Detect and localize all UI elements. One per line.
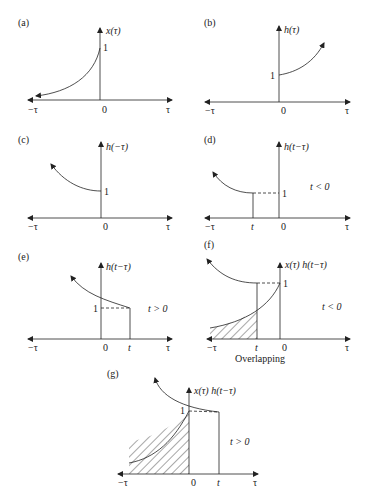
panel-label: (d): [204, 134, 216, 146]
condition: t > 0: [230, 436, 250, 447]
overlap-caption: Overlapping: [235, 353, 285, 364]
panel-a: (a) x(τ) 1 0 −τ τ: [18, 17, 172, 115]
one-label: 1: [282, 188, 287, 199]
one-label: 1: [93, 303, 98, 314]
h-curve: [207, 259, 257, 283]
panel-label: (g): [107, 368, 119, 380]
panel-e: (e) h(t−τ) 1 t > 0 t 0 −τ τ: [18, 251, 172, 353]
curve: [279, 43, 324, 75]
neg-tau-label: −τ: [205, 221, 215, 232]
zero-label: 0: [281, 221, 286, 232]
condition: t < 0: [322, 301, 342, 312]
one-label: 1: [104, 186, 109, 197]
t-label: t: [128, 342, 131, 353]
t-label: t: [217, 477, 220, 488]
y-label: x(τ): [105, 25, 121, 37]
one-label: 1: [283, 278, 288, 289]
panel-label: (b): [204, 17, 216, 29]
neg-tau-label: −τ: [118, 477, 128, 488]
panel-label: (f): [204, 239, 214, 251]
one-label: 1: [180, 405, 185, 416]
neg-tau-label: −τ: [28, 342, 38, 353]
zero-label: 0: [191, 477, 196, 488]
neg-tau-label: −τ: [28, 104, 38, 115]
overlap-area: [129, 411, 189, 474]
t-label: t: [251, 221, 254, 232]
tau-label: τ: [345, 221, 349, 232]
panel-b: (b) h(τ) 1 0 −τ τ: [204, 17, 350, 116]
panel-d: (d) h(t−τ) 1 t < 0 t 0 −τ τ: [204, 134, 350, 232]
panel-label: (e): [18, 251, 29, 263]
condition: t > 0: [148, 303, 168, 314]
panel-label: (a): [18, 17, 29, 29]
tau-label: τ: [166, 104, 170, 115]
zero-label: 0: [103, 221, 108, 232]
panel-c: (c) h(−τ) 1 0 −τ τ: [18, 134, 172, 232]
y-label: h(t−τ): [106, 261, 131, 273]
zero-label: 0: [281, 105, 286, 116]
one-label: 1: [270, 70, 275, 81]
neg-tau-label: −τ: [205, 105, 215, 116]
curve: [71, 276, 130, 308]
curve: [213, 172, 253, 193]
y-label: x(τ) h(t−τ): [284, 259, 328, 271]
condition: t < 0: [310, 181, 330, 192]
y-label: x(τ) h(t−τ): [193, 385, 237, 397]
neg-tau-label: −τ: [207, 342, 217, 353]
y-label: h(t−τ): [284, 141, 309, 153]
neg-tau-label: −τ: [28, 221, 38, 232]
y-label: h(−τ): [106, 141, 129, 153]
t-label: t: [255, 342, 258, 353]
tau-label: τ: [345, 342, 349, 353]
overlap-area: [210, 308, 257, 339]
zero-label: 0: [102, 104, 107, 115]
y-label: h(τ): [284, 24, 300, 36]
zero-label: 0: [282, 342, 287, 353]
tau-label: τ: [345, 105, 349, 116]
convolution-diagram: (a) x(τ) 1 0 −τ τ (b) h(τ) 1 0 −τ τ (c) …: [0, 0, 369, 497]
one-label: 1: [103, 42, 108, 53]
tau-label: τ: [166, 342, 170, 353]
curve: [51, 164, 101, 191]
zero-label: 0: [103, 342, 108, 353]
panel-g: (g) x(τ) h(t−τ) 1 t > 0 t 0 −τ τ: [107, 368, 258, 488]
curve: [36, 48, 100, 96]
tau-label: τ: [166, 221, 170, 232]
panel-label: (c): [18, 134, 29, 146]
panel-f: (f) x(τ) h(t−τ) 1 t < 0 t 0 −τ τ Overlap…: [204, 239, 350, 364]
tau-label: τ: [253, 477, 257, 488]
